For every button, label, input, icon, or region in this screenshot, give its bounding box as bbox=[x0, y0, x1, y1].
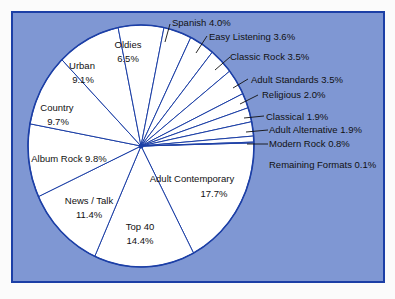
label-easy-listening: Easy Listening 3.6% bbox=[209, 31, 296, 42]
label-news-talk-value: 11.4% bbox=[76, 209, 103, 220]
label-remaining-formats: Remaining Formats 0.1% bbox=[269, 159, 377, 170]
label-adult-alternative: Adult Alternative 1.9% bbox=[269, 124, 362, 135]
label-news-talk-name: News / Talk bbox=[65, 195, 114, 206]
label-urban-name: Urban bbox=[69, 60, 95, 71]
label-top40-value: 14.4% bbox=[127, 235, 154, 246]
label-oldies-name: Oldies bbox=[115, 39, 142, 50]
label-country-value: 9.7% bbox=[47, 116, 69, 127]
label-country-name: Country bbox=[40, 102, 74, 113]
label-adult-standards: Adult Standards 3.5% bbox=[251, 74, 343, 85]
label-religious: Religious 2.0% bbox=[262, 89, 326, 100]
label-spanish: Spanish 4.0% bbox=[172, 17, 231, 28]
label-adult-contemporary-value: 17.7% bbox=[201, 188, 228, 199]
label-oldies-value: 6.5% bbox=[117, 53, 139, 64]
label-modern-rock: Modern Rock 0.8% bbox=[269, 138, 350, 149]
label-classical: Classical 1.9% bbox=[266, 111, 329, 122]
label-adult-contemporary-name: Adult Contemporary bbox=[150, 173, 235, 184]
label-album-rock: Album Rock 9.8% bbox=[31, 153, 107, 164]
pie-chart: Spanish 4.0% Easy Listening 3.6% Classic… bbox=[0, 0, 395, 299]
pie-center bbox=[139, 144, 144, 149]
label-urban-value: 9.1% bbox=[72, 74, 94, 85]
label-classic-rock: Classic Rock 3.5% bbox=[230, 51, 310, 62]
label-top40-name: Top 40 bbox=[126, 221, 155, 232]
